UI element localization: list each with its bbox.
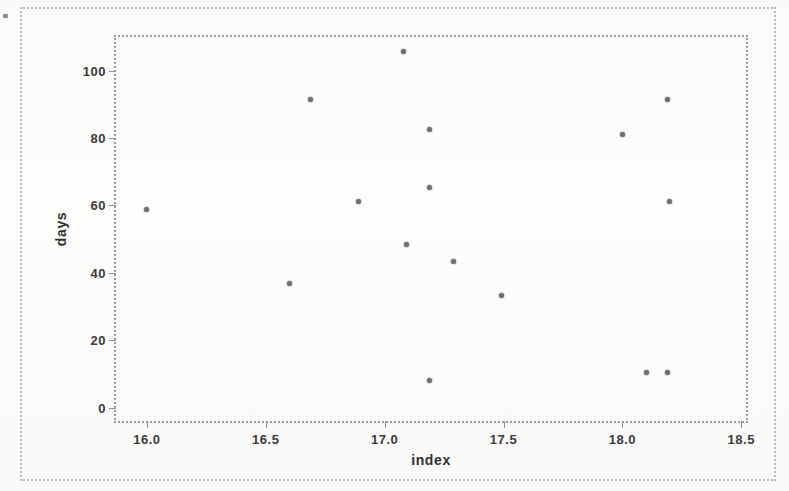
x-axis-tick — [504, 421, 505, 428]
data-point — [404, 242, 409, 247]
data-point — [451, 259, 456, 264]
data-point — [667, 199, 672, 204]
y-axis-tick-label: 20 — [91, 333, 106, 348]
x-axis-tick-label: 18.5 — [728, 432, 755, 447]
y-axis-tick-label: 80 — [91, 131, 106, 146]
x-axis-tick — [622, 421, 623, 428]
data-point — [308, 97, 313, 102]
y-axis-tick-label: 60 — [91, 198, 106, 213]
data-point — [620, 132, 625, 137]
x-axis-tick-label: 18.0 — [609, 432, 636, 447]
scatter-plot-figure: 02040608010016.016.517.017.518.018.5 day… — [0, 0, 789, 491]
y-axis-tick-label: 0 — [98, 400, 106, 415]
data-point — [644, 370, 649, 375]
data-point — [144, 207, 149, 212]
data-point-area — [116, 37, 746, 421]
x-axis-tick — [147, 421, 148, 428]
data-point — [356, 199, 361, 204]
y-axis-tick-label: 100 — [83, 63, 106, 78]
y-axis-tick — [109, 138, 116, 139]
x-axis-tick-label: 16.5 — [252, 432, 279, 447]
y-axis-tick — [109, 340, 116, 341]
plot-panel: 02040608010016.016.517.017.518.018.5 — [114, 35, 748, 423]
y-axis-tick-label: 40 — [91, 265, 106, 280]
y-axis-tick — [109, 205, 116, 206]
scan-artifact-mark — [3, 14, 8, 18]
y-axis-tick — [109, 273, 116, 274]
x-axis-title: index — [114, 452, 748, 468]
data-point — [427, 185, 432, 190]
data-point — [665, 97, 670, 102]
y-axis-tick — [109, 408, 116, 409]
data-point — [499, 293, 504, 298]
data-point — [665, 370, 670, 375]
x-axis-tick — [741, 421, 742, 428]
data-point — [401, 49, 406, 54]
x-axis-tick-label: 17.5 — [490, 432, 517, 447]
x-axis-tick-label: 16.0 — [133, 432, 160, 447]
y-axis-title: days — [53, 212, 69, 246]
x-axis-tick — [266, 421, 267, 428]
x-axis-tick-label: 17.0 — [371, 432, 398, 447]
data-point — [427, 127, 432, 132]
data-point — [287, 281, 292, 286]
y-axis-tick — [109, 71, 116, 72]
x-axis-tick — [385, 421, 386, 428]
data-point — [427, 378, 432, 383]
